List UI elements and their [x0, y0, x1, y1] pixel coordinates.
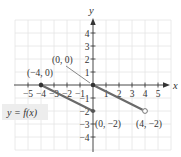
y-tick-label: −3	[79, 120, 89, 130]
function-label: y = f(x)	[6, 107, 38, 119]
x-tick-label: 3	[130, 89, 135, 99]
y-tick-label: −4	[79, 133, 89, 143]
y-tick-label: 2	[85, 55, 90, 65]
closed-point-0-0	[91, 83, 96, 88]
y-tick-label: 4	[85, 29, 90, 39]
point-label-0-0: (0, 0)	[52, 55, 73, 66]
open-point-4-neg2	[143, 109, 148, 114]
x-tick-labels: −5 −4 −3 −2 −1 1 2 3 4 5	[23, 89, 161, 99]
x-tick-label: −4	[36, 89, 46, 99]
x-tick-label: −5	[23, 89, 33, 99]
y-tick-label: −1	[79, 94, 89, 104]
point-label-neg4-0: (−4, 0)	[27, 68, 53, 79]
x-axis-arrow-icon	[163, 82, 170, 87]
closed-point-neg4-0	[39, 83, 44, 88]
point-label-0-neg2: (0, −2)	[95, 119, 121, 130]
x-tick-label: 5	[156, 89, 161, 99]
x-axis-label: x	[172, 80, 178, 91]
y-tick-label: 1	[85, 68, 90, 78]
y-axis-arrow-icon	[90, 18, 95, 25]
function-graph: y = f(x) x y −5 −4 −3 −2 −1 1 2 3 4 5	[0, 0, 181, 157]
y-tick-label: 3	[85, 42, 90, 52]
point-label-4-neg2: (4, −2)	[136, 119, 162, 130]
y-axis-label: y	[88, 5, 94, 16]
closed-point-0-neg2	[91, 109, 95, 113]
x-tick-label: 4	[143, 89, 148, 99]
